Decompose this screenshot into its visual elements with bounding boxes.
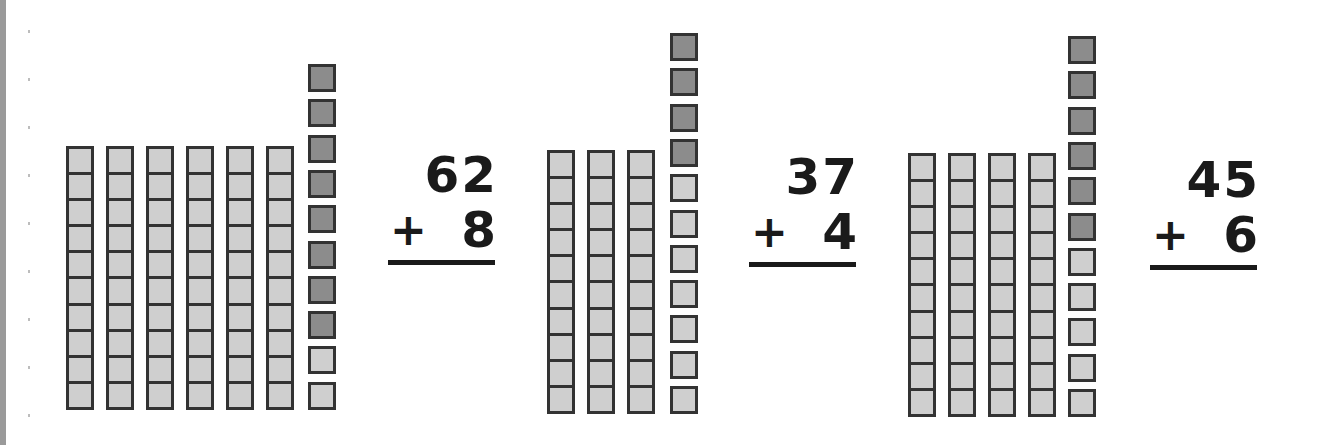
- plus-sign: +: [1152, 210, 1189, 260]
- rod-cell: [991, 156, 1013, 182]
- second-addend: 6: [1223, 210, 1260, 260]
- rod-cell: [911, 234, 933, 260]
- rod-cell: [951, 365, 973, 391]
- rod-cell: [69, 149, 91, 175]
- rod-cell: [229, 279, 251, 305]
- rod-cell: [590, 257, 612, 283]
- rod-cell: [1031, 182, 1053, 208]
- rod-cell: [991, 208, 1013, 234]
- answer-line: [1150, 265, 1257, 270]
- rod-cell: [269, 306, 291, 332]
- unit-cube-dark: [308, 205, 336, 233]
- rod-cell: [911, 365, 933, 391]
- rod-cell: [109, 201, 131, 227]
- rod-cell: [229, 201, 251, 227]
- rod-cell: [189, 279, 211, 305]
- unit-cube-light: [1068, 248, 1096, 276]
- rod-cell: [149, 227, 171, 253]
- tens-rod: [66, 146, 94, 410]
- tens-rod: [988, 153, 1016, 417]
- answer-line: [749, 262, 856, 267]
- rod-cell: [149, 279, 171, 305]
- rod-cell: [590, 336, 612, 362]
- rod-cell: [269, 201, 291, 227]
- rod-cell: [630, 310, 652, 336]
- unit-cube-dark: [1068, 213, 1096, 241]
- unit-cube-dark: [308, 170, 336, 198]
- rod-cell: [590, 388, 612, 411]
- rod-cell: [69, 201, 91, 227]
- unit-cube-light: [308, 382, 336, 410]
- rod-cell: [269, 332, 291, 358]
- unit-cube-light: [670, 386, 698, 414]
- rod-cell: [550, 283, 572, 309]
- unit-cube-dark: [670, 68, 698, 96]
- rod-cell: [911, 208, 933, 234]
- rod-cell: [991, 260, 1013, 286]
- rod-cell: [911, 156, 933, 182]
- rod-cell: [69, 358, 91, 384]
- tens-rod: [1028, 153, 1056, 417]
- rod-cell: [109, 279, 131, 305]
- unit-cube-light: [670, 210, 698, 238]
- rod-cell: [109, 175, 131, 201]
- unit-cube-light: [670, 351, 698, 379]
- tens-rod: [266, 146, 294, 410]
- unit-cube-dark: [670, 139, 698, 167]
- unit-cube-dark: [1068, 107, 1096, 135]
- rod-cell: [189, 175, 211, 201]
- second-addend: 4: [822, 207, 859, 257]
- tens-rod: [627, 150, 655, 414]
- rod-cell: [951, 234, 973, 260]
- unit-cube-dark: [670, 104, 698, 132]
- rod-cell: [69, 175, 91, 201]
- rod-cell: [630, 283, 652, 309]
- rod-cell: [590, 179, 612, 205]
- second-addend: 8: [461, 205, 498, 255]
- rod-cell: [1031, 286, 1053, 312]
- rod-cell: [550, 153, 572, 179]
- rod-cell: [630, 179, 652, 205]
- unit-cube-light: [1068, 389, 1096, 417]
- rod-cell: [269, 227, 291, 253]
- rod-cell: [149, 306, 171, 332]
- tens-rod: [587, 150, 615, 414]
- rod-cell: [911, 260, 933, 286]
- tens-rod: [948, 153, 976, 417]
- unit-cube-light: [670, 315, 698, 343]
- rod-cell: [229, 358, 251, 384]
- rod-cell: [189, 227, 211, 253]
- rod-cell: [630, 205, 652, 231]
- rod-cell: [189, 332, 211, 358]
- unit-cube-dark: [1068, 142, 1096, 170]
- rod-cell: [991, 313, 1013, 339]
- unit-cube-dark: [1068, 177, 1096, 205]
- rod-cell: [229, 332, 251, 358]
- rod-cell: [991, 234, 1013, 260]
- unit-cube-dark: [308, 99, 336, 127]
- first-addend: 62: [424, 150, 498, 200]
- rod-cell: [590, 362, 612, 388]
- rod-cell: [911, 339, 933, 365]
- rod-cell: [991, 182, 1013, 208]
- rod-cell: [1031, 260, 1053, 286]
- rod-cell: [911, 391, 933, 414]
- rod-cell: [951, 260, 973, 286]
- rod-cell: [630, 362, 652, 388]
- rod-cell: [590, 310, 612, 336]
- rod-cell: [109, 227, 131, 253]
- rod-cell: [109, 358, 131, 384]
- unit-cube-light: [308, 346, 336, 374]
- rod-cell: [189, 384, 211, 407]
- rod-cell: [189, 253, 211, 279]
- rod-cell: [69, 253, 91, 279]
- rod-cell: [269, 149, 291, 175]
- rod-cell: [550, 231, 572, 257]
- tens-rod: [547, 150, 575, 414]
- rod-cell: [149, 149, 171, 175]
- plus-sign: +: [751, 207, 788, 257]
- rod-cell: [269, 279, 291, 305]
- rod-cell: [951, 286, 973, 312]
- rod-cell: [149, 358, 171, 384]
- first-addend: 37: [785, 152, 859, 202]
